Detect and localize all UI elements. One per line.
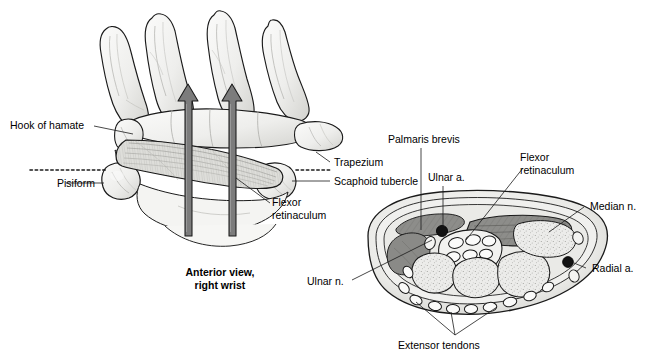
trapezium-bone [294,122,342,151]
leader-extensor-tendons-2 [451,312,455,335]
label-radial-a: Radial a. [592,262,633,275]
label-pisiform: Pisiform [57,177,95,190]
label-scaphoid-tubercle: Scaphoid tubercle [334,175,418,188]
label-trapezium: Trapezium [334,156,383,169]
metacarpal-two [262,20,309,121]
label-ulnar-a: Ulnar a. [428,171,465,184]
label-ulnar-n: Ulnar n. [307,275,344,288]
wrist-anatomy-figure [0,0,647,358]
radial-artery [563,257,574,268]
label-flexor-retinaculum-left: Flexor retinaculum [272,196,326,221]
caption-anterior-view-right-wrist: Anterior view, right wrist [150,266,290,291]
label-hook-of-hamate: Hook of hamate [10,119,84,132]
label-extensor-tendons: Extensor tendons [398,339,480,352]
label-flexor-retinaculum-right: Flexor retinaculum [520,151,574,176]
label-palmaris-brevis: Palmaris brevis [388,133,460,146]
ulnar-artery [436,225,447,236]
leader-trapezium [316,152,330,162]
metacarpal-five [100,27,148,130]
label-median-n: Median n. [590,200,636,213]
